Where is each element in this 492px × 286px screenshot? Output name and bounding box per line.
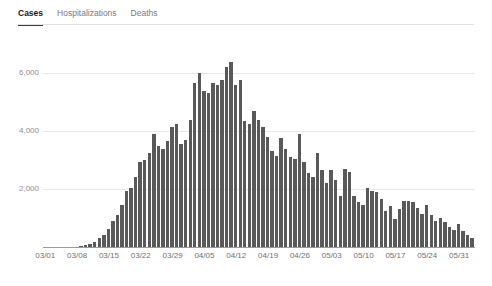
bar[interactable] <box>270 151 273 247</box>
bar[interactable] <box>179 144 182 247</box>
bar[interactable] <box>389 206 392 247</box>
bar[interactable] <box>439 218 442 247</box>
bar[interactable] <box>466 235 469 247</box>
bar[interactable] <box>384 211 387 247</box>
bar[interactable] <box>366 188 369 247</box>
bar[interactable] <box>380 199 383 247</box>
bar[interactable] <box>143 160 146 247</box>
bar[interactable] <box>252 111 255 247</box>
bar[interactable] <box>193 83 196 247</box>
bar[interactable] <box>216 85 219 247</box>
bar[interactable] <box>229 62 232 247</box>
bar[interactable] <box>248 124 251 247</box>
bar[interactable] <box>161 149 164 248</box>
bar[interactable] <box>289 157 292 247</box>
x-axis-tick-label: 04/05 <box>194 251 214 261</box>
bar[interactable] <box>352 196 355 247</box>
bar[interactable] <box>170 127 173 247</box>
x-axis-tick-label: 04/12 <box>226 251 246 261</box>
bar[interactable] <box>407 201 410 247</box>
x-axis-tick-label: 03/15 <box>99 251 119 261</box>
x-axis-line <box>43 247 475 248</box>
bar[interactable] <box>402 201 405 247</box>
bar[interactable] <box>184 140 187 247</box>
bar[interactable] <box>461 231 464 247</box>
bar[interactable] <box>370 191 373 247</box>
plot-area <box>43 50 475 247</box>
bar[interactable] <box>189 120 192 247</box>
bar[interactable] <box>425 205 428 247</box>
bar[interactable] <box>266 137 269 247</box>
bar[interactable] <box>234 85 237 247</box>
bar[interactable] <box>257 120 260 247</box>
bar[interactable] <box>107 229 110 247</box>
bar[interactable] <box>320 170 323 247</box>
bar[interactable] <box>275 156 278 247</box>
bar[interactable] <box>284 149 287 248</box>
x-axis-tick-label: 03/22 <box>131 251 151 261</box>
bar[interactable] <box>357 202 360 247</box>
x-axis-tick-label: 04/26 <box>290 251 310 261</box>
bar[interactable] <box>129 188 132 247</box>
bar[interactable] <box>316 153 319 247</box>
bar[interactable] <box>470 238 473 247</box>
bar[interactable] <box>148 153 151 247</box>
bar[interactable] <box>329 170 332 247</box>
bar[interactable] <box>111 221 114 247</box>
bar[interactable] <box>98 238 101 247</box>
y-axis-tick-label: 6,000 <box>0 69 39 77</box>
bar[interactable] <box>325 183 328 247</box>
bar[interactable] <box>220 80 223 247</box>
bar[interactable] <box>175 124 178 247</box>
bar[interactable] <box>339 196 342 247</box>
bar[interactable] <box>202 91 205 247</box>
bar[interactable] <box>420 214 423 247</box>
x-axis-tick-label: 05/24 <box>417 251 437 261</box>
y-axis-labels: 2,0004,0006,000 <box>0 50 39 247</box>
bar[interactable] <box>307 173 310 247</box>
bar[interactable] <box>452 230 455 247</box>
bar[interactable] <box>361 205 364 247</box>
bar[interactable] <box>457 224 460 247</box>
bar[interactable] <box>239 80 242 247</box>
bar[interactable] <box>393 219 396 247</box>
bar[interactable] <box>116 215 119 247</box>
x-axis-tick-label: 04/19 <box>258 251 278 261</box>
bar[interactable] <box>298 134 301 247</box>
bar[interactable] <box>348 172 351 247</box>
bar[interactable] <box>138 162 141 247</box>
bar[interactable] <box>343 169 346 247</box>
bar[interactable] <box>243 121 246 247</box>
bar[interactable] <box>157 146 160 247</box>
bar[interactable] <box>311 177 314 247</box>
bar[interactable] <box>430 215 433 247</box>
bar[interactable] <box>448 227 451 247</box>
bar[interactable] <box>102 235 105 247</box>
bar[interactable] <box>120 205 123 247</box>
bar[interactable] <box>166 141 169 247</box>
tab-bar: Cases Hospitalizations Deaths <box>0 0 492 30</box>
bar[interactable] <box>411 202 414 247</box>
bar[interactable] <box>225 67 228 247</box>
bar[interactable] <box>334 180 337 247</box>
bar[interactable] <box>293 159 296 247</box>
bar[interactable] <box>375 192 378 247</box>
x-axis-tick-label: 05/17 <box>385 251 405 261</box>
bar[interactable] <box>434 221 437 247</box>
bar[interactable] <box>134 177 137 247</box>
y-axis-tick-label: 4,000 <box>0 127 39 135</box>
bar[interactable] <box>279 138 282 247</box>
x-axis-tick-label: 03/29 <box>163 251 183 261</box>
bar[interactable] <box>416 208 419 247</box>
y-axis-tick-label: 2,000 <box>0 185 39 193</box>
bar[interactable] <box>302 162 305 247</box>
bar[interactable] <box>398 209 401 247</box>
bar[interactable] <box>198 73 201 247</box>
bar[interactable] <box>261 127 264 247</box>
bar[interactable] <box>211 83 214 247</box>
bar[interactable] <box>443 222 446 247</box>
bar[interactable] <box>152 134 155 247</box>
x-axis-tick-label: 03/08 <box>67 251 87 261</box>
bar[interactable] <box>125 191 128 247</box>
bar[interactable] <box>207 93 210 247</box>
